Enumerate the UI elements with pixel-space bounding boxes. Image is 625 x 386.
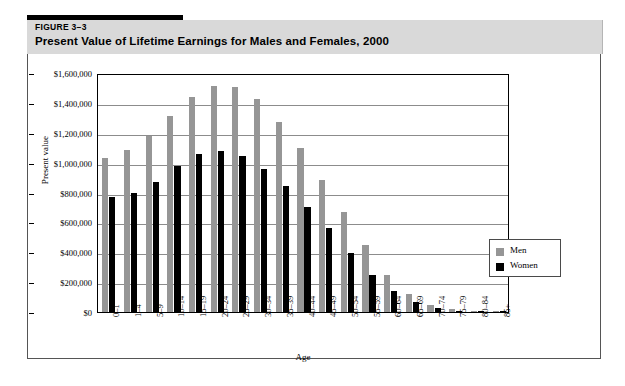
- plot-area: [97, 74, 509, 313]
- y-axis-tick-label: $1,200,000: [54, 129, 92, 139]
- x-axis-tick-label: 45–49: [328, 296, 338, 317]
- bar-men: [319, 180, 325, 312]
- bar-men: [362, 245, 368, 312]
- y-axis-tick-label: $1,400,000: [54, 99, 92, 109]
- bar-men: [384, 275, 390, 312]
- bar-men: [232, 87, 238, 312]
- legend-label: Men: [510, 245, 527, 255]
- bar-women: [283, 186, 289, 312]
- y-axis-tick-label: $1,000,000: [54, 159, 92, 169]
- bar-group: [319, 75, 332, 312]
- bar-group: [254, 75, 267, 312]
- y-axis-tick-mark: [29, 253, 34, 254]
- bar-women: [153, 182, 159, 312]
- figure-number: FIGURE 3–3: [35, 22, 87, 32]
- bar-men: [406, 294, 412, 312]
- chart-legend: MenWomen: [489, 239, 561, 277]
- y-axis-tick-mark: [29, 223, 34, 224]
- bar-women: [109, 197, 115, 312]
- y-axis-tick-label: $1,600,000: [54, 69, 92, 79]
- bar-women: [218, 151, 224, 312]
- x-axis-tick-label: 15–19: [198, 296, 208, 317]
- bar-group: [427, 75, 440, 312]
- x-axis-tick-label: 60–64: [393, 296, 403, 317]
- y-axis-tick-label: $400,000: [60, 248, 92, 258]
- x-axis-title: Age: [97, 352, 509, 362]
- x-axis-tick-label: 0–1: [111, 304, 121, 317]
- x-axis-tick-label: 85+: [502, 304, 512, 317]
- bar-women: [131, 193, 137, 313]
- bars-layer: [98, 75, 508, 312]
- y-axis-tick-mark: [29, 134, 34, 135]
- x-axis-tick-label: 30–34: [263, 296, 273, 317]
- bar-men: [471, 311, 477, 312]
- figure-container: FIGURE 3–3 Present Value of Lifetime Ear…: [0, 0, 625, 386]
- x-axis-tick-label: 35–39: [285, 296, 295, 317]
- bar-men: [146, 136, 152, 312]
- bar-group: [297, 75, 310, 312]
- legend-label: Women: [510, 260, 538, 270]
- bar-men: [189, 97, 195, 312]
- bar-women: [239, 156, 245, 312]
- y-axis-tick-label: $800,000: [60, 189, 92, 199]
- x-axis-tick-labels: 0–11–45–910–1415–1920–2425–2930–3435–394…: [97, 314, 509, 354]
- y-axis-tick-mark: [29, 283, 34, 284]
- bar-group: [449, 75, 462, 312]
- x-axis-tick-label: 65–69: [415, 296, 425, 317]
- x-axis-tick-label: 75–79: [458, 296, 468, 317]
- y-axis-tick-mark: [29, 164, 34, 165]
- bar-group: [211, 75, 224, 312]
- bar-men: [449, 309, 455, 312]
- y-axis-tick-label: $600,000: [60, 218, 92, 228]
- bar-group: [276, 75, 289, 312]
- bar-men: [124, 150, 130, 312]
- y-axis-tick-mark: [29, 313, 34, 314]
- bar-men: [427, 305, 433, 312]
- x-axis-tick-label: 70–74: [437, 296, 447, 317]
- bar-group: [406, 75, 419, 312]
- x-axis-tick-label: 50–54: [350, 296, 360, 317]
- bar-group: [362, 75, 375, 312]
- bar-group: [189, 75, 202, 312]
- y-axis-tick-mark: [29, 74, 34, 75]
- x-axis-tick-label: 80–84: [480, 296, 490, 317]
- bar-group: [384, 75, 397, 312]
- x-axis-tick-label: 5–9: [155, 304, 165, 317]
- x-axis-tick-label: 55–59: [372, 296, 382, 317]
- x-axis-tick-label: 10–14: [176, 296, 186, 317]
- bar-group: [341, 75, 354, 312]
- bar-group: [146, 75, 159, 312]
- y-axis-tick-labels: $1,600,000$1,400,000$1,200,000$1,000,000…: [34, 74, 92, 313]
- bar-men: [211, 86, 217, 312]
- bar-men: [341, 212, 347, 312]
- figure-title: Present Value of Lifetime Earnings for M…: [35, 35, 389, 47]
- bar-men: [493, 311, 499, 312]
- bar-men: [102, 158, 108, 312]
- y-axis-tick-label: $200,000: [60, 278, 92, 288]
- legend-swatch-men: [496, 248, 504, 256]
- bar-men: [254, 99, 260, 312]
- y-axis-tick-mark: [29, 104, 34, 105]
- bar-group: [471, 75, 484, 312]
- x-axis-tick-label: 20–24: [220, 296, 230, 317]
- bar-group: [124, 75, 137, 312]
- bar-group: [102, 75, 115, 312]
- bar-women: [174, 166, 180, 312]
- y-axis-tick-label: $0: [84, 308, 93, 318]
- y-axis-tick-mark: [29, 194, 34, 195]
- bar-men: [167, 116, 173, 312]
- bar-women: [196, 154, 202, 312]
- bar-men: [276, 122, 282, 312]
- bar-women: [261, 169, 267, 312]
- x-axis-tick-label: 1–4: [133, 304, 143, 317]
- x-axis-tick-label: 25–29: [241, 296, 251, 317]
- legend-swatch-women: [496, 263, 504, 271]
- bar-men: [297, 148, 303, 312]
- bar-group: [167, 75, 180, 312]
- x-axis-tick-label: 40–44: [307, 296, 317, 317]
- bar-group: [232, 75, 245, 312]
